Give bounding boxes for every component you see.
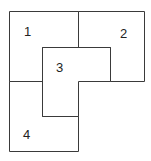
piece-1-label: 1 xyxy=(24,24,31,39)
piece-1-shape xyxy=(10,12,79,82)
piece-4-label: 4 xyxy=(23,127,30,142)
piece-4-shape xyxy=(10,82,79,152)
piece-3-shape xyxy=(43,48,111,117)
puzzle-diagram: 1 2 3 4 xyxy=(0,0,151,161)
piece-3-label: 3 xyxy=(56,60,63,75)
piece-2-shape xyxy=(79,12,145,82)
piece-2-label: 2 xyxy=(120,26,127,41)
